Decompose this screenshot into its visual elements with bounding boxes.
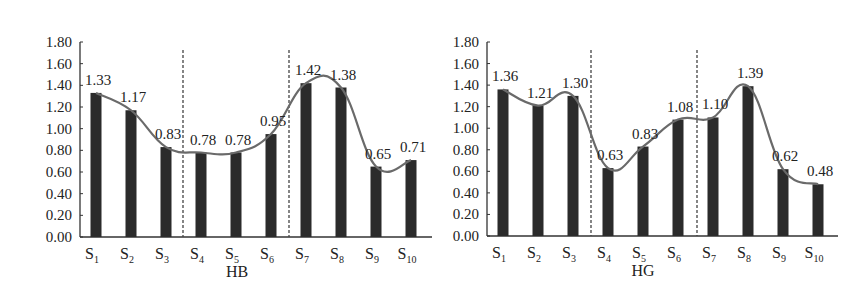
bar-s3 (161, 147, 172, 237)
data-label: 0.65 (365, 146, 391, 162)
chart-hg: 0.000.200.400.600.801.001.201.401.601.80… (453, 34, 838, 279)
data-label: 1.17 (120, 89, 147, 105)
bar-s9 (778, 169, 789, 236)
data-label: 0.71 (400, 139, 426, 155)
bar-s6 (266, 134, 277, 237)
y-tick-label: 1.40 (46, 77, 72, 93)
y-tick-label: 0.00 (46, 229, 72, 245)
data-label: 0.63 (597, 147, 623, 163)
x-tick-label: S5 (225, 245, 239, 265)
data-label: 1.38 (330, 67, 356, 83)
chart-canvas: 0.000.200.400.600.801.001.201.401.601.80… (0, 0, 868, 297)
bar-s5 (231, 153, 242, 238)
x-tick-label: S1 (492, 244, 506, 264)
bar-s8 (743, 86, 754, 236)
bar-s6 (673, 120, 684, 236)
y-tick-label: 0.80 (46, 142, 72, 158)
data-label: 0.95 (260, 113, 286, 129)
y-tick-label: 1.00 (46, 121, 72, 137)
data-label: 1.42 (295, 62, 321, 78)
x-tick-label: S4 (190, 245, 204, 265)
chart-hb: 0.000.200.400.600.801.001.201.401.601.80… (46, 34, 432, 280)
x-tick-label: S2 (527, 244, 541, 264)
bar-s10 (406, 160, 417, 237)
data-label: 0.78 (190, 132, 216, 148)
data-label: 0.78 (225, 132, 251, 148)
bar-s8 (336, 88, 347, 238)
data-label: 1.33 (85, 72, 111, 88)
x-tick-label: S3 (155, 245, 169, 265)
y-tick-label: 0.20 (46, 207, 72, 223)
bar-s2 (533, 106, 544, 236)
x-tick-label: S1 (85, 245, 99, 265)
bar-s7 (301, 83, 312, 237)
y-tick-label: 0.40 (46, 186, 72, 202)
x-tick-label: S8 (737, 244, 751, 264)
data-label: 0.62 (772, 148, 798, 164)
y-tick-label: 0.00 (453, 228, 479, 244)
y-tick-label: 1.20 (46, 99, 72, 115)
y-tick-label: 0.60 (46, 164, 72, 180)
bar-s5 (638, 147, 649, 236)
data-label: 1.36 (492, 68, 519, 84)
y-tick-label: 0.60 (453, 163, 479, 179)
x-tick-label: S3 (562, 244, 576, 264)
x-tick-label: S9 (772, 244, 786, 264)
data-label: 0.48 (807, 163, 833, 179)
y-tick-label: 1.80 (453, 34, 479, 50)
y-tick-label: 1.60 (46, 56, 72, 72)
chart-title: HG (631, 262, 655, 279)
bar-s4 (196, 153, 207, 238)
x-tick-label: S7 (295, 245, 309, 265)
bar-s3 (568, 96, 579, 236)
x-tick-label: S10 (805, 244, 824, 264)
y-tick-label: 0.20 (453, 206, 479, 222)
y-tick-label: 1.40 (453, 77, 479, 93)
x-tick-label: S5 (632, 244, 646, 264)
x-tick-label: S6 (260, 245, 274, 265)
bar-s1 (498, 89, 509, 236)
bar-s4 (603, 168, 614, 236)
chart-title: HB (226, 263, 248, 280)
data-label: 1.08 (667, 99, 693, 115)
data-label: 1.21 (527, 85, 553, 101)
x-tick-label: S8 (330, 245, 344, 265)
x-tick-label: S7 (702, 244, 716, 264)
x-tick-label: S10 (398, 245, 417, 265)
x-tick-label: S6 (667, 244, 681, 264)
y-tick-label: 1.20 (453, 99, 479, 115)
x-tick-label: S9 (365, 245, 379, 265)
bar-s1 (91, 93, 102, 237)
y-tick-label: 0.80 (453, 142, 479, 158)
data-label: 0.83 (632, 126, 658, 142)
data-label: 1.10 (702, 96, 728, 112)
data-label: 1.39 (737, 65, 763, 81)
bar-s2 (126, 110, 137, 237)
y-tick-label: 1.80 (46, 34, 72, 50)
y-tick-label: 1.00 (453, 120, 479, 136)
bar-s9 (371, 167, 382, 237)
bar-s7 (708, 117, 719, 236)
y-tick-label: 0.40 (453, 185, 479, 201)
data-label: 0.83 (155, 126, 181, 142)
bar-s10 (813, 184, 824, 236)
y-tick-label: 1.60 (453, 56, 479, 72)
x-tick-label: S2 (120, 245, 134, 265)
data-label: 1.30 (562, 75, 588, 91)
x-tick-label: S4 (597, 244, 611, 264)
